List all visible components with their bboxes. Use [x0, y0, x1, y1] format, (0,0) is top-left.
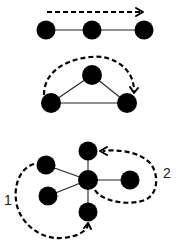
path-label-2: 2 — [163, 165, 171, 181]
node — [37, 156, 56, 175]
node — [79, 142, 98, 161]
star-graph-panel: 1 2 — [4, 142, 171, 239]
node — [135, 21, 154, 40]
line-graph-panel — [37, 8, 154, 40]
arrowhead-icon — [130, 87, 138, 93]
node — [41, 93, 61, 113]
graph-diagram: 1 2 — [0, 0, 183, 243]
path-label-1: 1 — [4, 192, 12, 208]
node — [82, 65, 102, 85]
node — [37, 21, 56, 40]
node — [79, 203, 98, 222]
node — [83, 21, 102, 40]
node — [117, 93, 137, 113]
triangle-graph-panel — [41, 57, 138, 113]
node — [121, 171, 140, 190]
node — [39, 187, 58, 206]
hub-node — [78, 170, 98, 190]
